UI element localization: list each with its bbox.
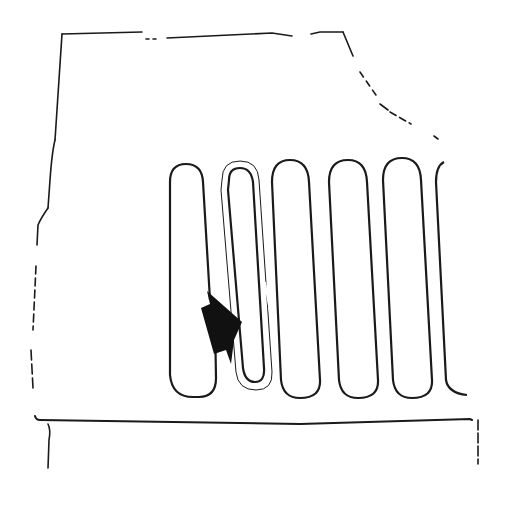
diagram-canvas	[0, 0, 508, 523]
serpentine-tube	[170, 158, 467, 398]
panel-outline	[31, 32, 478, 468]
base-line	[35, 416, 472, 424]
flow-arrow	[201, 291, 242, 364]
